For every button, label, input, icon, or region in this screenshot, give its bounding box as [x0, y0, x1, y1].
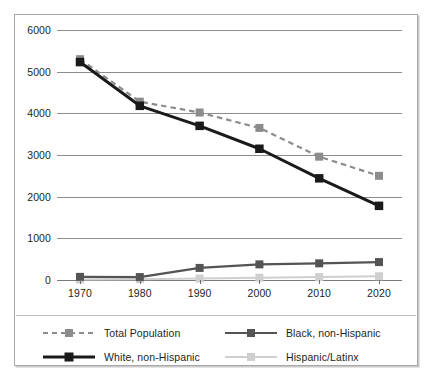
x-axis-tick — [140, 280, 141, 284]
series-layer — [57, 30, 402, 280]
data-point-marker — [315, 153, 323, 161]
legend-label: Hispanic/Latinx — [286, 351, 359, 363]
series-line — [80, 62, 379, 206]
y-axis-tick-label: 5000 — [27, 66, 51, 78]
x-axis-tick-label: 1970 — [68, 287, 92, 299]
data-point-marker — [136, 102, 145, 111]
x-axis-tick — [379, 280, 380, 284]
legend-divider — [16, 315, 416, 316]
legend-swatch-icon — [225, 327, 277, 339]
y-axis-tick-label: 2000 — [27, 191, 51, 203]
x-axis-tick-label: 2000 — [248, 287, 272, 299]
legend-label: Black, non-Hispanic — [286, 327, 381, 339]
legend-swatch-icon — [43, 327, 95, 339]
series-total-population — [76, 55, 383, 180]
x-axis-tick-label: 1980 — [128, 287, 152, 299]
x-axis-tick-label: 1990 — [188, 287, 212, 299]
x-axis-tick — [319, 280, 320, 284]
data-point-marker — [255, 260, 263, 268]
x-axis-tick — [200, 280, 201, 284]
data-point-marker — [195, 122, 204, 131]
y-axis-tick-label: 4000 — [27, 107, 51, 119]
chart-figure: 0100020003000400050006000 19701980199020… — [14, 14, 418, 366]
data-point-marker — [375, 258, 383, 266]
y-axis-tick-label: 1000 — [27, 232, 51, 244]
legend-item[interactable]: Black, non-Hispanic — [213, 327, 417, 339]
data-point-marker — [315, 259, 323, 267]
data-point-marker — [255, 124, 263, 132]
legend-item[interactable]: Total Population — [15, 327, 213, 339]
legend-item[interactable]: White, non-Hispanic — [15, 351, 213, 363]
x-axis: 197019801990200020102020 — [57, 280, 402, 306]
x-axis-tick-label: 2020 — [367, 287, 391, 299]
data-point-marker — [255, 145, 264, 154]
y-axis-tick-label: 6000 — [27, 24, 51, 36]
x-axis-tick — [259, 280, 260, 284]
data-point-marker — [375, 202, 384, 211]
legend-swatch-icon — [43, 351, 95, 363]
plot-area: 0100020003000400050006000 — [57, 30, 402, 280]
data-point-marker — [196, 264, 204, 272]
y-axis-tick-label: 0 — [45, 274, 51, 286]
series-white-non-hispanic — [76, 58, 384, 210]
data-point-marker — [375, 172, 383, 180]
x-axis-tick-label: 2010 — [307, 287, 331, 299]
x-axis-tick — [80, 280, 81, 284]
legend-item[interactable]: Hispanic/Latinx — [213, 351, 417, 363]
data-point-marker — [76, 58, 85, 67]
legend-label: White, non-Hispanic — [104, 351, 200, 363]
legend-label: Total Population — [104, 327, 180, 339]
legend-swatch-icon — [225, 351, 277, 363]
y-axis-tick-label: 3000 — [27, 149, 51, 161]
series-line — [80, 262, 379, 277]
data-point-marker — [315, 174, 324, 183]
data-point-marker — [196, 109, 204, 117]
series-line — [80, 59, 379, 176]
chart-legend: Total PopulationBlack, non-HispanicWhite… — [15, 321, 417, 369]
